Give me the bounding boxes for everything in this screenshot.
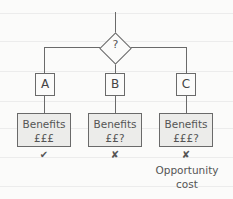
cross-icon: ✘ xyxy=(171,149,201,160)
benefit-title: Benefits xyxy=(89,117,141,131)
ruled-line xyxy=(0,71,233,72)
check-icon: ✔ xyxy=(29,149,59,160)
option-b-box: B xyxy=(105,73,125,96)
benefit-value: £££ xyxy=(18,131,70,145)
decision-label: ? xyxy=(104,38,127,51)
benefit-value: £££? xyxy=(160,131,212,145)
benefit-title: Benefits xyxy=(18,117,70,131)
option-c-box: C xyxy=(176,73,196,96)
opportunity-cost-note: Opportunity cost xyxy=(151,163,223,191)
cross-icon: ✘ xyxy=(100,149,130,160)
ruled-line xyxy=(0,13,233,14)
option-a-box: A xyxy=(35,73,55,96)
connector-a xyxy=(44,47,45,73)
benefit-title: Benefits xyxy=(160,117,212,131)
benefit-value: ££? xyxy=(89,131,141,145)
connector-c-benefit xyxy=(186,95,187,113)
connector-c xyxy=(186,47,187,73)
benefit-box-a: Benefits £££ xyxy=(17,113,71,147)
connector-b-benefit xyxy=(115,95,116,113)
benefit-box-c: Benefits £££? xyxy=(159,113,213,147)
ruled-line xyxy=(0,101,233,102)
benefit-box-b: Benefits ££? xyxy=(88,113,142,147)
connector-a-benefit xyxy=(44,95,45,113)
